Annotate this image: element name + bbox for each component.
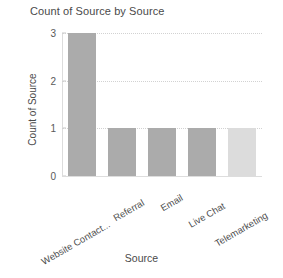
x-tick-label: Referral: [111, 197, 146, 223]
y-tick-label: 1: [36, 123, 56, 134]
bar[interactable]: [188, 128, 217, 176]
bar[interactable]: [108, 128, 137, 176]
bar-chart: Count of Source by Source Count of Sourc…: [0, 0, 283, 278]
x-axis-line: [62, 176, 262, 177]
x-tick-label: Live Chat: [187, 200, 227, 230]
bar[interactable]: [228, 128, 257, 176]
x-tick-label: Telemarketing: [213, 210, 270, 249]
y-tick-label: 0: [36, 171, 56, 182]
chart-title: Count of Source by Source: [30, 5, 165, 17]
bar[interactable]: [68, 33, 97, 176]
y-tick-label: 2: [36, 75, 56, 86]
bar[interactable]: [148, 128, 177, 176]
x-tick-label: Email: [159, 192, 185, 213]
plot-area: [62, 33, 262, 176]
y-axis-ticks: 0123: [36, 33, 56, 176]
y-tick-label: 3: [36, 28, 56, 39]
